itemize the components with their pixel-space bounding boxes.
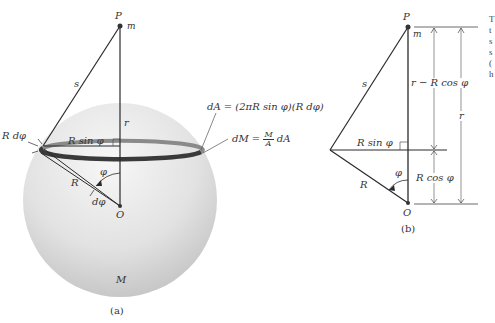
physics-figure: P m s r R sin φ R dφ R φ dφ O M (a) dA =… [0, 0, 495, 323]
edge-fragment: s [489, 36, 495, 47]
figure-a [23, 24, 228, 298]
caption-a: (a) [110, 306, 124, 316]
label-s-a: s [74, 79, 79, 89]
fraction-denominator: A [263, 140, 273, 148]
edge-fragment: t [489, 25, 495, 36]
label-dphi: dφ [92, 197, 105, 207]
formula-da: dA = (2πR sin φ)(R dφ) [207, 102, 324, 112]
label-r-cos-phi: R cos φ [416, 173, 454, 183]
edge-fragment: s [489, 47, 495, 58]
diagram-drawing [0, 0, 495, 323]
figure-b [330, 25, 478, 206]
formula-dm-fraction: M A [263, 131, 273, 148]
label-s-b: s [362, 79, 367, 89]
label-mass-m-b: m [413, 30, 422, 39]
label-r-sin-phi-a: R sin φ [68, 136, 104, 146]
label-radius-r-b: R [360, 180, 368, 190]
label-r-dphi: R dφ [2, 131, 26, 141]
label-mass-m-a: m [127, 22, 136, 31]
label-r-a: r [124, 118, 129, 128]
label-r-sin-phi-b: R sin φ [357, 138, 393, 148]
edge-fragment: ( [489, 58, 495, 69]
label-sphere-mass: M [116, 275, 126, 285]
label-center-o-b: O [403, 208, 411, 218]
label-phi-a: φ [100, 167, 107, 177]
label-r-minus-rcos: r − R cos φ [411, 78, 468, 88]
label-phi-b: φ [395, 168, 402, 178]
label-center-o-a: O [116, 210, 124, 220]
label-point-p-a: P [115, 11, 122, 21]
edge-fragment: h [489, 69, 495, 80]
label-radius-r-a: R [71, 178, 79, 188]
label-r-b: r [459, 111, 464, 121]
caption-b: (b) [401, 224, 415, 234]
formula-dm-suffix: dA [277, 133, 291, 144]
formula-dm: dM = M A dA [232, 131, 290, 148]
edge-fragment: T [489, 14, 495, 25]
clipped-caption-text: T t s s ( h [489, 14, 495, 80]
formula-dm-prefix: dM = [232, 133, 260, 144]
label-point-p-b: P [403, 12, 410, 22]
